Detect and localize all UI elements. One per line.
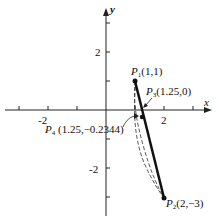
point-p4 bbox=[140, 115, 144, 119]
label-p1: P1(1,1) bbox=[131, 66, 162, 79]
plot-canvas bbox=[0, 0, 219, 220]
diagram: y x -2 2 2 -2 P1(1,1) P3(1.25,0) P4 (1.2… bbox=[0, 0, 219, 220]
label-p2: P2(2,−3) bbox=[166, 198, 204, 211]
x-axis-label: x bbox=[204, 97, 209, 108]
label-p4: P4 (1.25,−0.2344) bbox=[45, 124, 124, 137]
y-axis-arrow-icon bbox=[103, 8, 109, 16]
y-tick-label-2: 2 bbox=[95, 47, 101, 58]
point-p1 bbox=[133, 79, 138, 84]
y-tick-label-neg2: -2 bbox=[89, 164, 98, 175]
x-tick-label-2: 2 bbox=[161, 115, 167, 126]
label-p3: P3(1.25,0) bbox=[146, 86, 191, 99]
y-axis-label: y bbox=[110, 4, 115, 15]
